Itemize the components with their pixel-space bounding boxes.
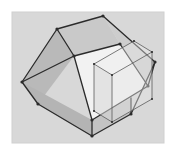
geometry-figure-canvas [0, 0, 177, 155]
v-top-left-vertex [55, 27, 58, 30]
v-top-apex-vertex [101, 14, 104, 17]
v-inner-top-vertex [118, 42, 121, 45]
s-v-back-top-vertex [133, 40, 135, 42]
v-left-vertex [20, 80, 23, 83]
v-left-lower-vertex [36, 102, 39, 105]
v-bottom-vertex [90, 134, 93, 137]
v-inner-left-vertex [72, 54, 75, 57]
v-front-vertex [90, 118, 93, 121]
v-right-vertex [153, 60, 156, 63]
s-v-left-low-vertex [93, 110, 95, 112]
s-v-front-low-vertex [111, 121, 113, 123]
v-right-lower-vertex [129, 112, 132, 115]
s-v-back-left-vertex [93, 63, 95, 65]
figure-container: 3D wireframe illustration of an open box… [0, 0, 177, 155]
s-v-right-low-vertex [151, 98, 153, 100]
s-v-front-vertex [111, 74, 113, 76]
s-v-back-right-vertex [151, 51, 153, 53]
